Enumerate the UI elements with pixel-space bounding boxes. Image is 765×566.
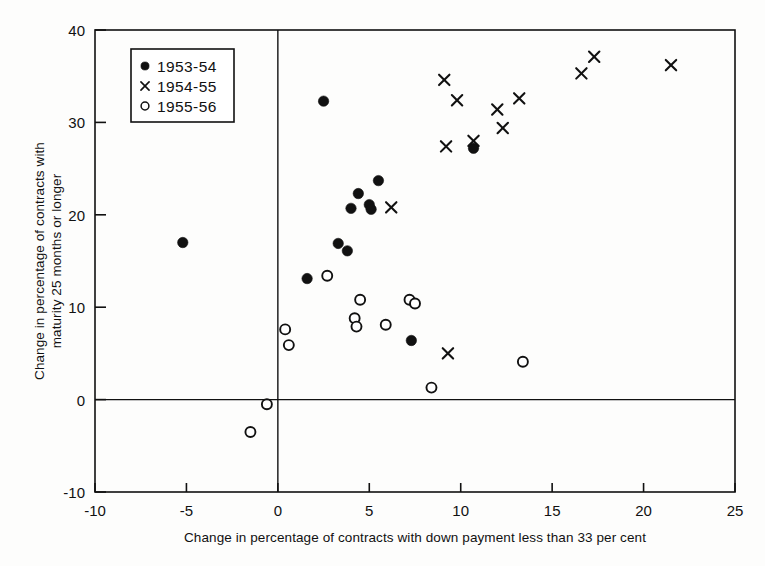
data-point-open-circle (518, 357, 528, 367)
data-point-cross (576, 68, 586, 78)
data-point-cross (498, 123, 508, 133)
data-point-filled-circle (373, 175, 383, 185)
y-tick-label: 10 (68, 299, 85, 316)
y-axis-label: Change in percentage of contracts with (32, 142, 47, 380)
legend-label: 1953-54 (157, 58, 217, 75)
data-point-cross (589, 52, 599, 62)
y-tick-label: 30 (68, 114, 85, 131)
data-point-open-circle (426, 383, 436, 393)
data-point-cross (386, 202, 396, 212)
data-point-cross (439, 75, 449, 85)
data-point-open-circle (322, 271, 332, 281)
data-point-open-circle (280, 324, 290, 334)
data-point-filled-circle (318, 96, 328, 106)
y-tick-label: 40 (68, 22, 85, 39)
data-point-filled-circle (353, 188, 363, 198)
series-1954-55 (386, 52, 676, 359)
data-point-filled-circle (366, 204, 376, 214)
legend-marker-open-circle (141, 102, 149, 110)
x-tick-label: 25 (727, 502, 744, 519)
data-point-cross (452, 95, 462, 105)
data-point-filled-circle (333, 238, 343, 248)
series-1953-54 (178, 96, 479, 346)
data-point-filled-circle (346, 203, 356, 213)
legend-marker-filled-circle (141, 62, 149, 70)
x-tick-label: 20 (635, 502, 652, 519)
data-point-cross (514, 93, 524, 103)
data-point-cross (443, 348, 453, 358)
data-point-filled-circle (342, 246, 352, 256)
data-point-filled-circle (302, 273, 312, 283)
data-point-open-circle (284, 340, 294, 350)
series-1955-56 (245, 271, 527, 437)
data-point-cross (441, 141, 451, 151)
data-point-cross (492, 104, 502, 114)
chart-canvas: -10-50510152025-10010203040Change in per… (0, 0, 765, 566)
data-point-open-circle (245, 427, 255, 437)
legend-label: 1955-56 (157, 98, 217, 115)
x-tick-label: 15 (544, 502, 561, 519)
y-tick-label: 0 (77, 392, 85, 409)
y-tick-label: -10 (63, 484, 85, 501)
y-axis-label: maturity 25 months or longer (49, 173, 64, 348)
x-tick-label: -10 (84, 502, 106, 519)
data-point-open-circle (355, 295, 365, 305)
scatter-chart-figure: -10-50510152025-10010203040Change in per… (0, 0, 765, 566)
y-tick-label: 20 (68, 207, 85, 224)
x-axis-label: Change in percentage of contracts with d… (184, 530, 646, 545)
data-point-open-circle (351, 322, 361, 332)
x-tick-label: 5 (365, 502, 373, 519)
data-point-filled-circle (406, 335, 416, 345)
x-tick-label: -5 (180, 502, 193, 519)
data-point-filled-circle (178, 237, 188, 247)
x-tick-label: 10 (452, 502, 469, 519)
data-point-open-circle (410, 299, 420, 309)
legend-label: 1954-55 (157, 78, 217, 95)
legend: 1953-541954-551955-56 (131, 49, 234, 122)
x-tick-label: 0 (274, 502, 282, 519)
data-point-cross (666, 60, 676, 70)
data-point-open-circle (262, 399, 272, 409)
data-point-open-circle (381, 320, 391, 330)
